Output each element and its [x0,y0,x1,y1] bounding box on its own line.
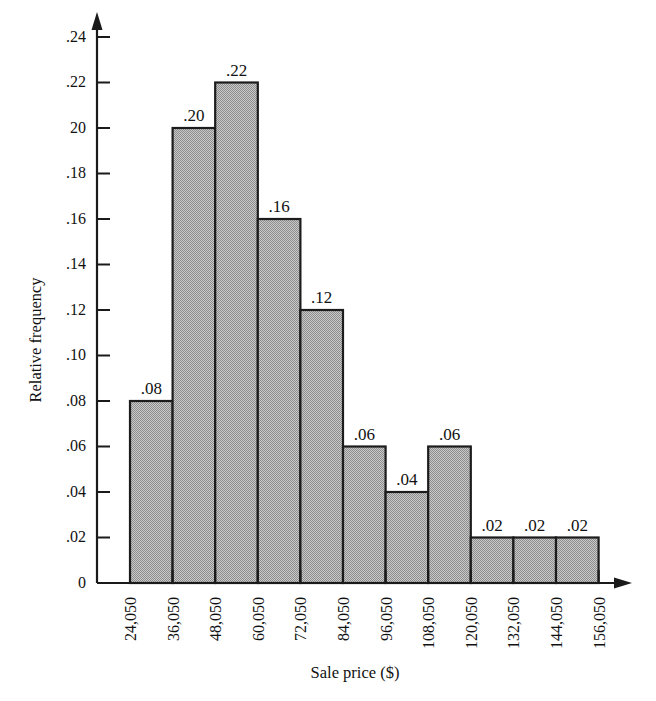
y-tick-label: .16 [66,210,86,227]
x-tick-label: 84,050 [335,597,352,641]
bar-value-label: .06 [354,425,375,444]
y-tick-label: .12 [66,301,86,318]
y-tick-label: .22 [66,73,86,90]
bar-value-label: .04 [396,470,418,489]
bar-value-label: .16 [268,197,289,216]
y-tick-label: .04 [66,483,86,500]
x-tick-label: 36,050 [165,597,182,641]
y-tick-label: .14 [66,255,86,272]
x-axis-arrow-icon [614,578,632,589]
histogram-bar [343,447,386,584]
x-tick-label: 144,050 [548,597,565,649]
x-tick-label: 60,050 [250,597,267,641]
histogram-bar [428,447,471,584]
y-axis-tick-labels: 0.02.04.06.08.10.12.14.16.1820.22.24 [66,28,86,591]
y-tick-label: .08 [66,392,86,409]
histogram-bar [471,538,514,584]
x-tick-label: 72,050 [292,597,309,641]
y-axis: 0.02.04.06.08.10.12.14.16.1820.22.24 [66,12,110,591]
histogram-bar [556,538,599,584]
x-tick-label: 120,050 [463,597,480,649]
y-axis-ticks [97,37,110,538]
chart-canvas: .08.20.22.16.12.06.04.06.02.02.02 0.02.0… [0,0,656,701]
bars-group [130,83,599,584]
bar-value-label: .02 [524,516,545,535]
y-axis-arrow-icon [92,12,103,30]
histogram-bar [386,492,429,583]
x-tick-label: 156,050 [591,597,608,649]
y-tick-label: .10 [66,346,86,363]
bar-value-label: .22 [226,61,247,80]
y-tick-label: .18 [66,164,86,181]
x-tick-label: 108,050 [420,597,437,649]
bar-value-label: .12 [311,288,332,307]
bar-value-label: .06 [439,425,460,444]
y-tick-label: .06 [66,437,86,454]
x-tick-label: 24,050 [122,597,139,641]
histogram-chart: .08.20.22.16.12.06.04.06.02.02.02 0.02.0… [0,0,656,701]
x-axis-tick-labels: 24,05036,05048,05060,05072,05084,05096,0… [122,597,608,649]
bar-value-label: .20 [183,106,204,125]
bar-value-label: .08 [141,379,162,398]
histogram-bar [173,128,216,583]
y-tick-label: 0 [78,574,86,591]
x-tick-label: 48,050 [207,597,224,641]
y-tick-label: 20 [70,119,86,136]
x-tick-label: 96,050 [378,597,395,641]
y-tick-label: .24 [66,28,86,45]
histogram-bar [513,538,556,584]
y-tick-label: .02 [66,528,86,545]
y-axis-title: Relative frequency [26,277,45,403]
bar-value-label: .02 [567,516,588,535]
x-axis-title: Sale price ($) [311,663,400,682]
histogram-bar [215,83,258,584]
bar-value-label: .02 [481,516,502,535]
histogram-bar [130,401,173,583]
histogram-bar [258,219,301,583]
histogram-bar [300,310,343,583]
x-tick-label: 132,050 [505,597,522,649]
